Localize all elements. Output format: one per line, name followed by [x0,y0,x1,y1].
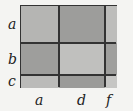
cell-a-d [59,6,105,43]
row-label-c: c [8,74,16,88]
row-label-a: a [8,17,16,31]
cell-b-a [21,43,59,75]
area-grid [20,5,117,88]
row-label-b: b [8,52,17,66]
cell-c-d [59,75,105,88]
col-label-a: a [35,93,43,107]
divider-horizontal-1 [21,42,116,44]
cell-b-d [59,43,105,75]
col-label-f: f [106,93,111,107]
divider-horizontal-2 [21,74,116,76]
col-label-d: d [77,93,86,107]
cell-c-a [21,75,59,88]
cell-c-f [105,75,117,88]
cell-a-f [105,6,117,43]
cell-b-f [105,43,117,75]
cell-a-a [21,6,59,43]
